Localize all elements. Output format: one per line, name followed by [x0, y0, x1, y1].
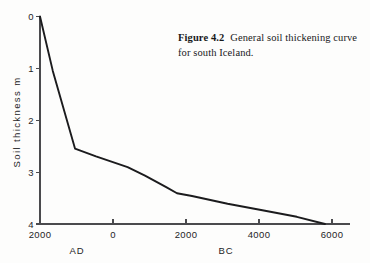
- y-tick-label-4: 4: [28, 219, 34, 230]
- era-label-ad: AD: [70, 245, 85, 256]
- soil-thickening-chart: 0 1 2 3 4 2000 0 2000 4000 6000 AD BC So…: [0, 0, 370, 263]
- x-tick-label-2000bc: 2000: [175, 229, 198, 240]
- figure-container: Figure 4.2General soil thickening curve …: [0, 0, 370, 263]
- x-tick-label-6000bc: 6000: [321, 229, 344, 240]
- x-tick-label-0: 0: [110, 229, 116, 240]
- y-tick-label-3: 3: [28, 167, 34, 178]
- y-tick-label-0: 0: [28, 11, 34, 22]
- x-tick-label-4000bc: 4000: [248, 229, 271, 240]
- y-tick-label-1: 1: [28, 63, 34, 74]
- y-tick-label-2: 2: [28, 115, 34, 126]
- era-label-bc: BC: [219, 245, 234, 256]
- x-tick-label-2000ad: 2000: [29, 229, 52, 240]
- y-axis-title: Soil thickness m: [11, 76, 22, 167]
- soil-thickness-curve: [40, 17, 325, 225]
